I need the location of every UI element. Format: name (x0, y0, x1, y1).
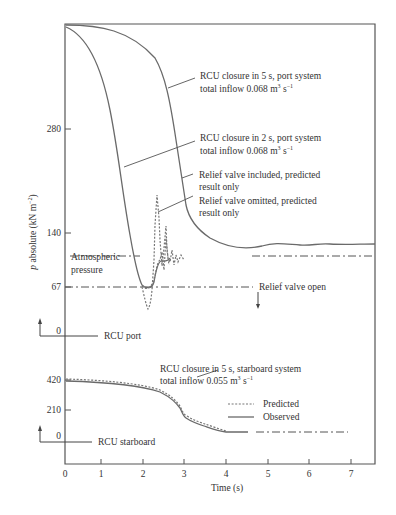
curve-relief-included (142, 238, 184, 288)
xtick-7: 7 (349, 469, 354, 479)
annotation-relief-included-line1: Relief valve included, predicted (199, 170, 321, 180)
x-axis-label: Time (s) (211, 483, 243, 494)
annotation-relief-omitted-line2: result only (199, 208, 240, 218)
ytick-140: 140 (47, 228, 62, 238)
leader-port5 (168, 78, 195, 88)
xtick-1: 1 (99, 469, 104, 479)
relief-valve-open-label: Relief valve open (259, 282, 326, 292)
curve-starboard-predicted (66, 379, 226, 431)
y-axis-port: 280 140 67 0 (38, 124, 98, 336)
xtick-2: 2 (141, 469, 146, 479)
annotation-port-2s-line1: RCU closure in 2 s, port system (200, 133, 322, 143)
ytick-67: 67 (52, 282, 62, 292)
pressure-transient-chart: 280 140 67 0 420 210 0 0 1 2 3 4 5 6 7 T (0, 0, 396, 515)
annotation-port-5s-line1: RCU closure in 5 s, port system (200, 71, 322, 81)
xtick-5: 5 (266, 469, 271, 479)
annotation-starboard-line2: total inflow 0.055 m3 s−1 (160, 375, 253, 386)
atmospheric-label-line2: pressure (71, 265, 103, 275)
ytick-420: 420 (47, 375, 62, 385)
leader-port2 (124, 141, 195, 167)
curve-relief-omitted (142, 195, 169, 309)
annotation-relief-omitted-line1: Relief valve omitted, predicted (199, 196, 317, 206)
annotation-starboard-line1: RCU closure in 5 s, starboard system (160, 364, 302, 374)
ytick-0-port: 0 (56, 326, 61, 336)
legend-observed-label: Observed (263, 412, 300, 422)
atmospheric-label-line1: Atmospheric (71, 252, 120, 262)
ytick-210: 210 (47, 405, 62, 415)
xtick-6: 6 (307, 469, 312, 479)
legend: Predicted Observed (228, 399, 300, 422)
rcu-starboard-label: RCU starboard (98, 437, 156, 447)
annotation-port-2s-line2: total inflow 0.068 m3 s−1 (200, 145, 293, 156)
y-axis-label: p absolute (kN m−2) (27, 194, 39, 270)
legend-predicted-label: Predicted (263, 399, 299, 409)
annotation-relief-included-line2: result only (199, 182, 240, 192)
xtick-4: 4 (224, 469, 229, 479)
rcu-port-label: RCU port (104, 331, 142, 341)
ytick-0-starboard: 0 (56, 431, 61, 441)
xtick-3: 3 (182, 469, 187, 479)
ytick-280: 280 (47, 124, 62, 134)
xtick-0: 0 (63, 469, 68, 479)
leader-relief-inc (182, 174, 193, 178)
annotation-port-5s-line2: total inflow 0.068 m3 s−1 (200, 83, 293, 94)
